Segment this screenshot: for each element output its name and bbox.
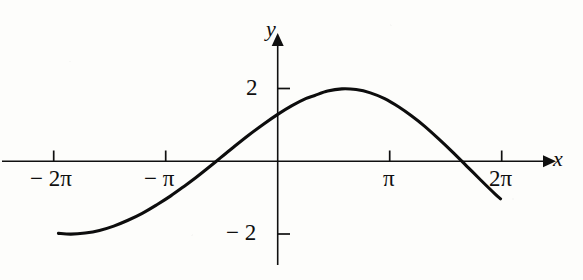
y-tick-label-neg-2: − 2 — [226, 221, 256, 244]
graph-figure: − 2π − π π 2π 2 − 2 x y — [0, 0, 583, 280]
plot-svg — [0, 0, 583, 280]
x-tick-label-2pi: 2π — [489, 167, 512, 190]
x-tick-label-neg-2pi: − 2π — [30, 167, 72, 190]
x-axis-label: x — [553, 148, 563, 170]
x-tick-label-pi: π — [383, 167, 395, 190]
x-tick-label-neg-pi: − π — [144, 167, 174, 190]
y-axis-label: y — [266, 18, 276, 40]
y-tick-label-pos-2: 2 — [246, 76, 258, 99]
